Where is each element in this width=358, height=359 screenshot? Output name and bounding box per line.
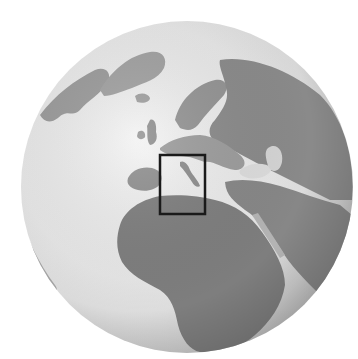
globe-map xyxy=(0,0,358,359)
globe-shading xyxy=(21,21,353,353)
